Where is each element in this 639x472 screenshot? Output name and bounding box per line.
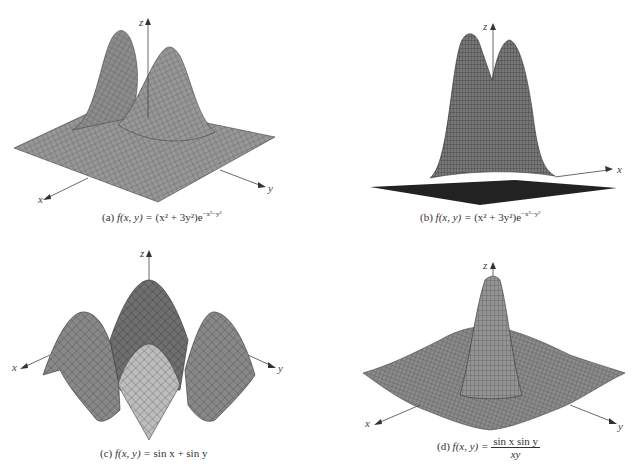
caption-a: (a) f(x, y) = (x² + 3y²)e−x²−y²: [102, 210, 222, 223]
z-axis-label: z: [140, 247, 144, 259]
x-axis-label: x: [12, 361, 17, 373]
surface-plot-c: [0, 240, 320, 450]
z-axis-label: z: [139, 16, 143, 28]
panel-d: z x y (d) f(x, y) = sin x sin y xy: [330, 240, 639, 472]
fraction: sin x sin y xy: [491, 435, 540, 460]
caption-d: (d) f(x, y) = sin x sin y xy: [437, 435, 540, 460]
y-axis-label: y: [618, 420, 623, 432]
z-axis-label: z: [483, 259, 487, 271]
x-axis: [555, 170, 608, 177]
y-axis: [570, 405, 613, 422]
x-axis: [47, 178, 88, 198]
z-axis-label: z: [483, 20, 487, 32]
panel-c: z x y (c) f(x, y) = sin x + sin y: [0, 240, 320, 472]
caption-b: (b) f(x, y) = (x² + 3y²)e−x²−y²: [420, 210, 540, 223]
panel-b: z x (b) f(x, y) = (x² + 3y²)e−x²−y²: [330, 0, 639, 235]
x-axis-label: x: [365, 417, 370, 429]
caption-c: (c) f(x, y) = sin x + sin y: [100, 447, 207, 459]
panel-a: z x y (a) f(x, y) = (x² + 3y²)e−x²−y²: [0, 0, 320, 235]
y-axis-label: y: [268, 182, 273, 194]
x-axis: [378, 405, 420, 423]
x-axis-label: x: [617, 163, 622, 175]
y-axis-label: y: [278, 362, 283, 374]
x-axis-label: x: [38, 193, 43, 205]
x-axis: [24, 355, 50, 367]
surface-plot-a: [0, 0, 320, 210]
y-axis: [220, 170, 262, 186]
